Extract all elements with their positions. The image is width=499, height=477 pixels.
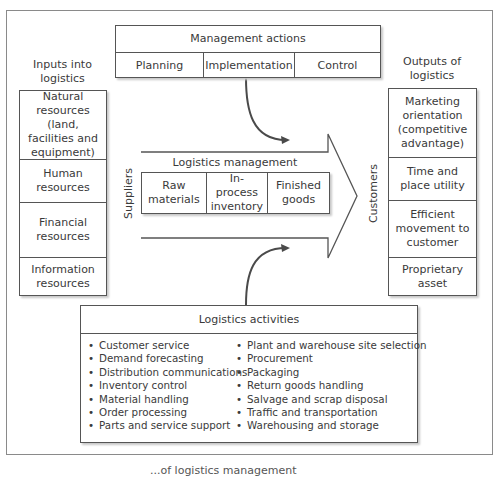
input-natural-resources: Natural resources (land, facilities and … <box>20 91 106 160</box>
stage-finished-goods: Finished goods <box>268 173 329 213</box>
output-time-place-utility: Time and place utility <box>389 158 476 201</box>
activity-item: Order processing <box>88 406 236 419</box>
activity-item: Parts and service support <box>88 419 236 432</box>
activity-item: Salvage and scrap disposal <box>236 393 427 406</box>
management-planning: Planning <box>116 53 204 78</box>
activity-item: Packaging <box>236 366 427 379</box>
inputs-box: Natural resources (land, facilities and … <box>19 90 107 296</box>
activity-item: Customer service <box>88 339 236 352</box>
outputs-title: Outputs of logistics <box>382 55 482 83</box>
activities-right-list: Plant and warehouse site selection Procu… <box>236 339 427 433</box>
logistics-activities-box: Logistics activities Customer service De… <box>80 305 418 443</box>
activity-item: Demand forecasting <box>88 352 236 365</box>
output-efficient-movement: Efficient movement to customer <box>389 201 476 258</box>
activity-item: Material handling <box>88 393 236 406</box>
logistics-management-title: Logistics management <box>141 156 329 170</box>
activity-item: Plant and warehouse site selection <box>236 339 427 352</box>
customers-label: Customers <box>367 164 380 224</box>
inputs-title: Inputs into logistics <box>10 58 115 86</box>
activity-item: Inventory control <box>88 379 236 392</box>
output-proprietary-asset: Proprietary asset <box>389 258 476 295</box>
stage-in-process-inventory: In-process inventory <box>207 173 268 213</box>
suppliers-label: Suppliers <box>122 164 135 224</box>
inputs-title-line-1: Inputs into <box>10 58 115 72</box>
logistics-management-stages: Raw materials In-process inventory Finis… <box>141 172 330 214</box>
management-actions-box: Management actions Planning Implementati… <box>115 25 381 78</box>
management-control: Control <box>295 53 380 78</box>
outputs-box: Marketing orientation (competitive advan… <box>388 88 477 296</box>
outputs-title-line-1: Outputs of <box>382 55 482 69</box>
figure-caption-partial: ...of logistics management <box>150 464 296 477</box>
activity-item: Warehousing and storage <box>236 419 427 432</box>
outputs-title-line-2: logistics <box>382 69 482 83</box>
activity-item: Distribution communications <box>88 366 236 379</box>
activities-to-flow-arrow <box>246 248 286 305</box>
management-actions-title: Management actions <box>116 26 380 53</box>
activity-item: Procurement <box>236 352 427 365</box>
input-information-resources: Information resources <box>20 258 106 295</box>
management-implementation: Implementation <box>204 53 295 78</box>
management-to-flow-arrow <box>246 78 286 140</box>
activity-item: Traffic and transportation <box>236 406 427 419</box>
activity-item: Return goods handling <box>236 379 427 392</box>
output-marketing-orientation: Marketing orientation (competitive advan… <box>389 89 476 158</box>
stage-raw-materials: Raw materials <box>142 173 207 213</box>
input-human-resources: Human resources <box>20 160 106 203</box>
logistics-activities-title: Logistics activities <box>81 306 417 334</box>
activities-left-list: Customer service Demand forecasting Dist… <box>88 339 236 433</box>
inputs-title-line-2: logistics <box>10 72 115 86</box>
input-financial-resources: Financial resources <box>20 203 106 258</box>
